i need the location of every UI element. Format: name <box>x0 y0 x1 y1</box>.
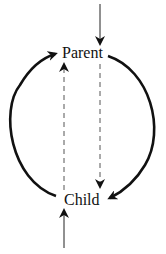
node-child-label: Child <box>64 192 100 208</box>
arc-arrow-child-to-parent <box>10 54 56 196</box>
arc-arrow-parent-to-child <box>108 56 154 198</box>
cycle-diagram: Parent Child <box>0 0 166 254</box>
node-parent-label: Parent <box>62 45 103 61</box>
diagram-graphics <box>0 0 166 254</box>
